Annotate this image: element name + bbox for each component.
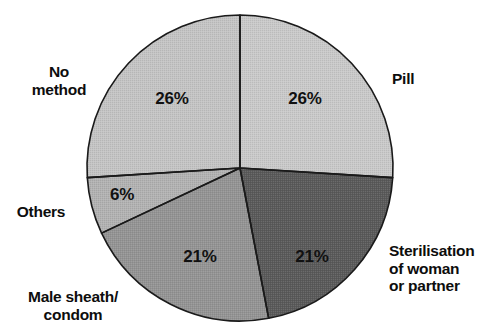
slice-percent-others: 6% <box>110 186 134 204</box>
slice-percent-no-method: 26% <box>155 90 188 108</box>
slice-category-label-male-sheath-condom: Male sheath/ condom <box>28 288 118 323</box>
pie-chart-figure: 26%21%21%6%26% PillSterilisation of woma… <box>0 0 499 333</box>
slice-category-label-sterilisation: Sterilisation of woman or partner <box>389 242 474 295</box>
slice-category-label-pill: Pill <box>392 70 414 88</box>
slice-percent-pill: 26% <box>288 90 321 108</box>
slice-category-label-no-method: No method <box>32 63 86 98</box>
slice-percent-male-sheath-condom: 21% <box>183 248 216 266</box>
slice-category-label-others: Others <box>17 203 65 221</box>
slice-percent-sterilisation: 21% <box>295 248 328 266</box>
